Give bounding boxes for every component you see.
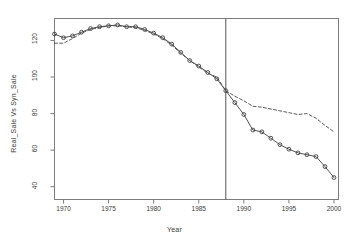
chart-figure: Year Real_Sale Vs Syn_Sale 1970197519801… [0, 0, 349, 251]
plot-border [55, 19, 339, 200]
plot-canvas [0, 0, 349, 251]
x-tick-label: 1985 [192, 205, 206, 212]
data-series-layer [53, 23, 336, 179]
y-tick-label: 80 [30, 99, 37, 125]
y-tick-label: 120 [30, 26, 37, 52]
y-axis-ticks [51, 40, 55, 186]
x-axis-ticks [64, 200, 334, 204]
x-tick-label: 1995 [282, 205, 296, 212]
y-tick-label: 40 [30, 172, 37, 198]
plot-frame [55, 19, 339, 200]
y-tick-label: 100 [30, 63, 37, 89]
y-tick-label: 60 [30, 136, 37, 162]
x-tick-label: 1980 [146, 205, 160, 212]
series-syn_sale [55, 26, 334, 132]
x-tick-label: 1990 [237, 205, 251, 212]
x-tick-label: 1975 [101, 205, 115, 212]
x-axis-title: Year [0, 226, 349, 233]
series-line [55, 26, 334, 132]
series-real_sale [53, 23, 336, 179]
x-tick-label: 2000 [327, 205, 341, 212]
x-tick-label: 1970 [56, 205, 70, 212]
y-axis-title: Real_Sale Vs Syn_Sale [10, 49, 17, 179]
series-line [55, 25, 334, 178]
